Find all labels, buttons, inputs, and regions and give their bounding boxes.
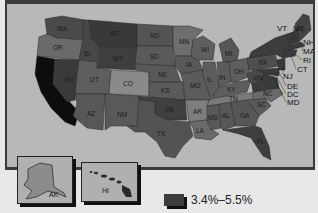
label-OK: OK — [165, 106, 175, 113]
label-AL: AL — [222, 112, 230, 119]
label-GA: GA — [240, 112, 250, 119]
label-WY: WY — [113, 55, 124, 62]
label-MD: MD — [287, 98, 300, 107]
label-OH: OH — [234, 68, 244, 75]
label-AZ: AZ — [87, 110, 95, 117]
label-NH: NH — [303, 38, 313, 47]
label-NC: NC — [263, 90, 273, 97]
label-NV: NV — [65, 76, 75, 83]
label-UT: UT — [90, 76, 99, 83]
label-IN: IN — [219, 74, 226, 81]
label-VT: VT — [277, 24, 287, 33]
label-ND: ND — [150, 32, 160, 39]
label-MA: MA — [303, 47, 313, 56]
label-NE: NE — [158, 71, 168, 78]
label-OR: OR — [53, 44, 63, 51]
legend-label: 3.4%–5.5% — [191, 193, 252, 207]
label-SC: SC — [257, 101, 266, 108]
legend: 3.4%–5.5% — [164, 193, 252, 207]
label-ID: ID — [84, 50, 91, 57]
label-MI: MI — [225, 50, 232, 57]
inset-hawaii: HI — [81, 162, 138, 202]
label-IL: IL — [207, 76, 213, 83]
label-RI: RI — [303, 56, 311, 65]
us-map: WA OR NV ID MT WY UT CO AZ NM ND SD NE K… — [7, 4, 313, 167]
label-AR: AR — [193, 108, 202, 115]
state-CT[interactable] — [283, 50, 297, 58]
label-TX: TX — [157, 130, 166, 137]
label-MO: MO — [190, 82, 200, 89]
label-CT: CT — [297, 65, 308, 74]
state-AK[interactable] — [24, 163, 66, 199]
label-PA: PA — [259, 59, 268, 66]
label-CO: CO — [123, 80, 133, 87]
label-MN: MN — [179, 38, 189, 45]
label-WV: WV — [253, 74, 264, 81]
label-ME: ME — [293, 24, 305, 33]
inset-alaska: AK — [17, 156, 73, 204]
label-FL: FL — [257, 138, 265, 145]
label-HI: HI — [102, 187, 109, 194]
label-IA: IA — [186, 61, 193, 68]
legend-swatch — [164, 194, 184, 206]
label-LA: LA — [196, 127, 205, 134]
label-MS: MS — [208, 114, 218, 121]
label-NM: NM — [117, 111, 127, 118]
label-NJ: NJ — [283, 72, 293, 81]
label-WA: WA — [57, 25, 68, 32]
label-KY: KY — [227, 86, 236, 93]
label-SD: SD — [150, 53, 159, 60]
state-HI[interactable] — [90, 171, 133, 197]
label-WI: WI — [201, 46, 209, 53]
label-AK: AK — [49, 191, 59, 198]
label-TN: TN — [229, 95, 238, 102]
label-MT: MT — [110, 30, 119, 37]
label-KS: KS — [161, 87, 170, 94]
